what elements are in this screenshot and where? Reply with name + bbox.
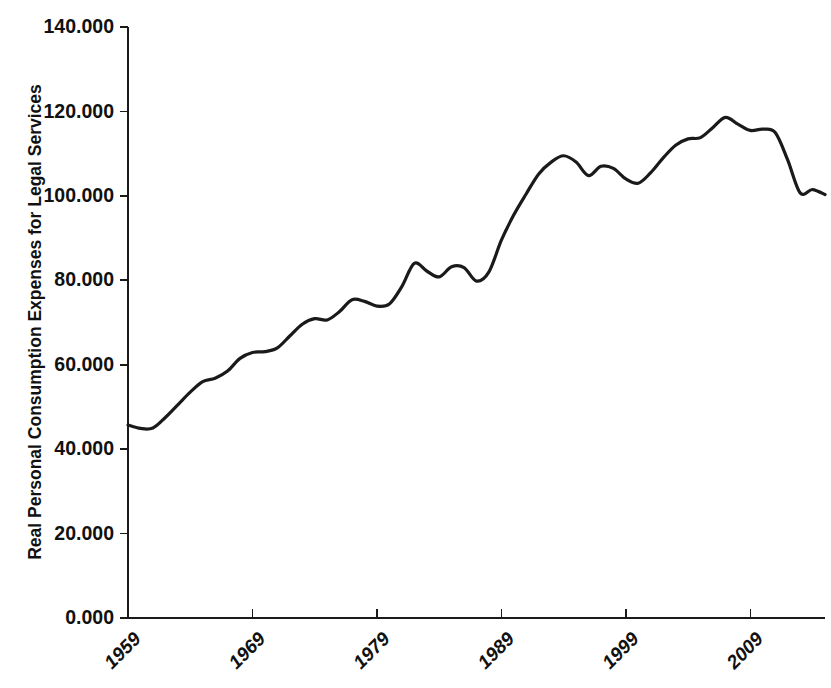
x-tick-label: 1989 bbox=[473, 628, 518, 673]
y-tick-label: 20.000 bbox=[54, 522, 114, 544]
chart-container: Real Personal Consumption Expenses for L… bbox=[0, 0, 831, 688]
x-tick-label: 1969 bbox=[225, 628, 270, 673]
x-tick-label: 1959 bbox=[100, 628, 145, 673]
x-tick-label: 1979 bbox=[349, 628, 394, 673]
axis-spines bbox=[128, 27, 825, 618]
y-tick-label: 40.000 bbox=[54, 437, 114, 459]
y-tick-label: 60.000 bbox=[54, 353, 114, 375]
line-chart: Real Personal Consumption Expenses for L… bbox=[0, 0, 831, 688]
y-tick-label: 0.000 bbox=[65, 606, 114, 628]
y-tick-label: 80.000 bbox=[54, 268, 114, 290]
y-axis-title: Real Personal Consumption Expenses for L… bbox=[25, 84, 45, 560]
y-tick-label: 140.000 bbox=[44, 15, 115, 37]
data-series-line bbox=[128, 117, 825, 429]
y-axis-ticks: 0.00020.00040.00060.00080.000100.000120.… bbox=[44, 15, 129, 628]
x-tick-label: 2009 bbox=[722, 628, 768, 674]
y-tick-label: 100.000 bbox=[44, 184, 115, 206]
x-tick-label: 1999 bbox=[598, 628, 643, 673]
y-tick-label: 120.000 bbox=[44, 100, 115, 122]
y-axis-title-group: Real Personal Consumption Expenses for L… bbox=[25, 84, 45, 560]
